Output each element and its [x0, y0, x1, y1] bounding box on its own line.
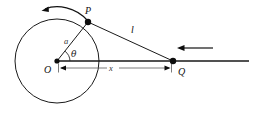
label-o: O — [44, 64, 51, 75]
rotation-arrowhead — [42, 7, 49, 12]
label-radius-a: a — [64, 36, 68, 46]
figure-container: O P Q a θ l x — [0, 0, 257, 115]
geometry-diagram: O P Q a θ l x — [0, 0, 257, 115]
angle-arc-theta — [65, 51, 70, 61]
label-distance-x: x — [108, 63, 113, 73]
point-dot-o — [54, 58, 59, 63]
point-dot-p — [85, 19, 91, 25]
dimension-arrowhead-left — [60, 66, 66, 71]
label-q: Q — [178, 66, 186, 77]
point-dot-q — [170, 58, 176, 64]
label-angle-theta: θ — [71, 49, 77, 59]
leftward-velocity-arrowhead — [177, 45, 185, 51]
counterclockwise-rotation-arrow — [45, 7, 88, 21]
label-chord-l: l — [131, 24, 134, 35]
dimension-arrowhead-right — [165, 66, 171, 71]
label-p: P — [84, 5, 91, 16]
